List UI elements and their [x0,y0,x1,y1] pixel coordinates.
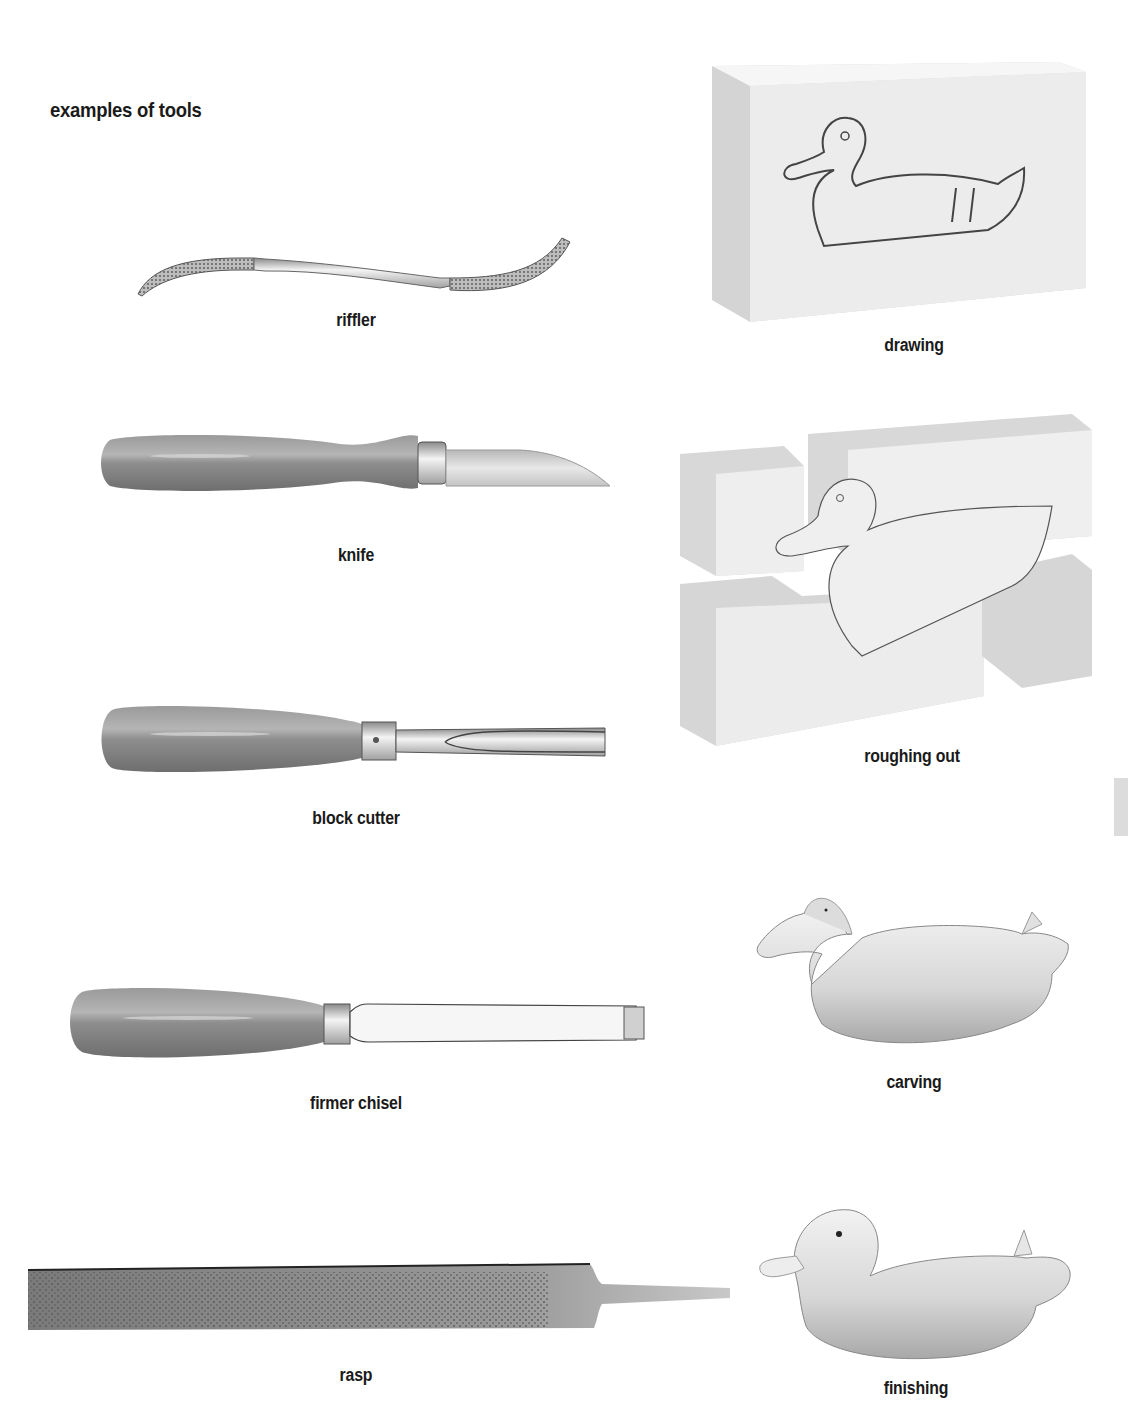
rasp-illustration [20,1258,735,1338]
firmer-chisel-illustration [68,982,650,1062]
carving-illustration [752,874,1082,1054]
tool-label-firmer-chisel: firmer chisel [310,1093,402,1114]
roughing-out-illustration [672,406,1092,746]
knife-illustration [100,428,615,498]
section-title: examples of tools [50,98,202,122]
riffler-illustration [130,230,580,300]
finishing-illustration [756,1196,1076,1368]
tool-label-rasp: rasp [340,1365,373,1386]
drawing-illustration [708,60,1088,325]
page-thumb-tab [1114,778,1128,836]
tool-label-riffler: riffler [336,310,375,331]
block-cutter-illustration [100,700,610,775]
tool-label-block-cutter: block cutter [312,808,400,829]
step-label-roughing-out: roughing out [864,746,960,767]
step-label-finishing: finishing [884,1378,948,1399]
step-label-carving: carving [886,1072,941,1093]
step-label-drawing: drawing [884,335,943,356]
tool-label-knife: knife [338,545,374,566]
